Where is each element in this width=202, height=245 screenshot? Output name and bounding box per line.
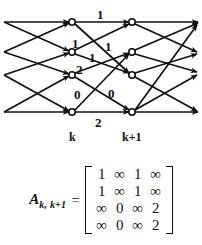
matrix-bracketed: 1 ∞ 1 ∞ 1 ∞ 1 ∞ ∞ 0 — [85, 166, 173, 234]
edge-in-r0-up — [4, 23, 69, 52]
trellis-edges — [4, 22, 198, 112]
node-k1-row3 — [129, 109, 135, 115]
edge-in-r3-down — [4, 75, 69, 111]
matrix-name-base: A — [29, 191, 39, 207]
edge-cost-label-bot-right: 0 — [108, 87, 115, 100]
matrix-equation: Ak, k+1 = 1 ∞ 1 ∞ 1 ∞ — [29, 166, 172, 234]
matrix-cell: ∞ — [111, 183, 129, 200]
matrix-cell: 1 — [129, 183, 147, 200]
edge-cost-label-bot-left: 0 — [74, 88, 81, 101]
edge-in-r2-up — [4, 76, 69, 112]
edge-cost-label-mid-right: 1 — [105, 40, 112, 53]
edge-cost-label-mid-center: 1 — [89, 51, 96, 64]
matrix-cell: ∞ — [93, 217, 111, 234]
edge-in-r1-up — [4, 53, 69, 75]
matrix-cell: 0 — [111, 200, 129, 217]
trellis-figure: 1 1 1 1 2 0 0 2 k k+1 Ak, k+1 = 1 ∞ 1 ∞ — [0, 0, 202, 245]
node-k1-row1 — [129, 49, 135, 55]
equals-sign: = — [71, 192, 79, 209]
node-k1-row2 — [129, 72, 135, 78]
edge-k0-k1-2 — [75, 24, 129, 73]
matrix-name-subscript: k, k+1 — [39, 198, 66, 209]
matrix-row: ∞ 0 ∞ 2 — [93, 200, 165, 217]
matrix-cell: ∞ — [129, 200, 147, 217]
matrix-table: 1 ∞ 1 ∞ 1 ∞ 1 ∞ ∞ 0 — [93, 166, 165, 234]
matrix-cell: 2 — [147, 200, 165, 217]
node-k-row3 — [69, 109, 75, 115]
matrix-cell: 1 — [93, 183, 111, 200]
stage-label-k1: k+1 — [122, 131, 142, 143]
matrix-row: ∞ 0 ∞ 2 — [93, 217, 165, 234]
edge-cost-label-bottom: 2 — [95, 116, 102, 129]
stage-label-k: k — [69, 131, 76, 143]
edge-out-r2-from-r3 — [135, 75, 197, 110]
matrix-cell: 2 — [147, 217, 165, 234]
edge-k1-k1-0 — [75, 24, 129, 50]
matrix-cell: ∞ — [129, 217, 147, 234]
node-k1-row0 — [129, 19, 135, 25]
matrix-cell: 0 — [111, 217, 129, 234]
node-k-row2 — [69, 72, 75, 78]
matrix-cell: 1 — [129, 166, 147, 183]
edge-out-r3-from-r2 — [135, 77, 197, 111]
edge-cost-label-top: 1 — [97, 8, 104, 21]
matrix-name: Ak, k+1 — [29, 191, 66, 210]
matrix-cell: ∞ — [147, 183, 165, 200]
node-k-row0 — [69, 19, 75, 25]
matrix-cell: ∞ — [111, 166, 129, 183]
right-bracket — [166, 166, 173, 234]
edge-cost-label-mid-upper: 1 — [72, 37, 79, 50]
left-bracket — [85, 166, 92, 234]
matrix-block: Ak, k+1 = 1 ∞ 1 ∞ 1 ∞ — [0, 155, 202, 245]
edge-cost-label-mid-lower: 2 — [76, 63, 83, 76]
matrix-cell: 1 — [93, 166, 111, 183]
matrix-cell: ∞ — [147, 166, 165, 183]
matrix-cell: ∞ — [93, 200, 111, 217]
edge-in-r2-down — [4, 52, 69, 74]
matrix-row: 1 ∞ 1 ∞ — [93, 166, 165, 183]
matrix-row: 1 ∞ 1 ∞ — [93, 183, 165, 200]
edge-in-r1-down — [4, 22, 69, 51]
